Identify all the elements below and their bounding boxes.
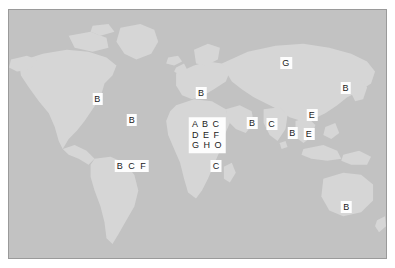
map-marker-east-asia-upper: E [307,109,318,121]
map-marker-north-america-southeast: B [127,114,138,126]
map-marker-australia: B [341,201,352,213]
map-marker-africa-south: C [211,160,222,172]
map-marker-middle-east: B [247,117,258,129]
map-marker-southeast-asia: B [287,127,298,139]
map-marker-east-asia-lower: E [304,128,315,140]
world-map-panel: BBBGBB C FA B C D E F G H OCBCBEEB [8,9,387,259]
map-marker-east-asia-japan: B [340,82,351,94]
map-marker-south-asia-west: C [266,118,277,130]
map-marker-south-america: B C F [115,160,150,172]
figure-root: BBBGBB C FA B C D E F G H OCBCBEEB [0,0,395,268]
map-marker-north-america-west: B [92,93,103,105]
map-marker-russia-north: G [280,57,292,69]
map-marker-europe: B [196,87,207,99]
map-marker-africa-central-grid: A B C D E F G H O [189,117,226,153]
